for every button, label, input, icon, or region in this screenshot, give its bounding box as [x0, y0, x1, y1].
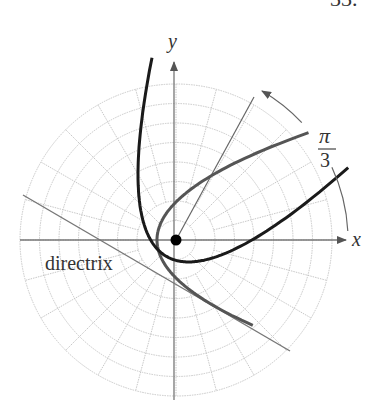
- rotated-axis-line: [176, 97, 254, 240]
- rotation-label-numerator: π: [319, 123, 331, 148]
- rotation-label-denominator: 3: [320, 149, 330, 171]
- rotated-conic-diagram: 33. y x π 3 directrix: [0, 0, 392, 418]
- directrix-label: directrix: [45, 252, 113, 274]
- focus-point: [171, 235, 182, 246]
- x-axis-label: x: [351, 228, 361, 250]
- header-fragment: 33.: [330, 0, 358, 11]
- rotation-arc-upper: [262, 91, 302, 123]
- y-axis-label: y: [166, 30, 177, 53]
